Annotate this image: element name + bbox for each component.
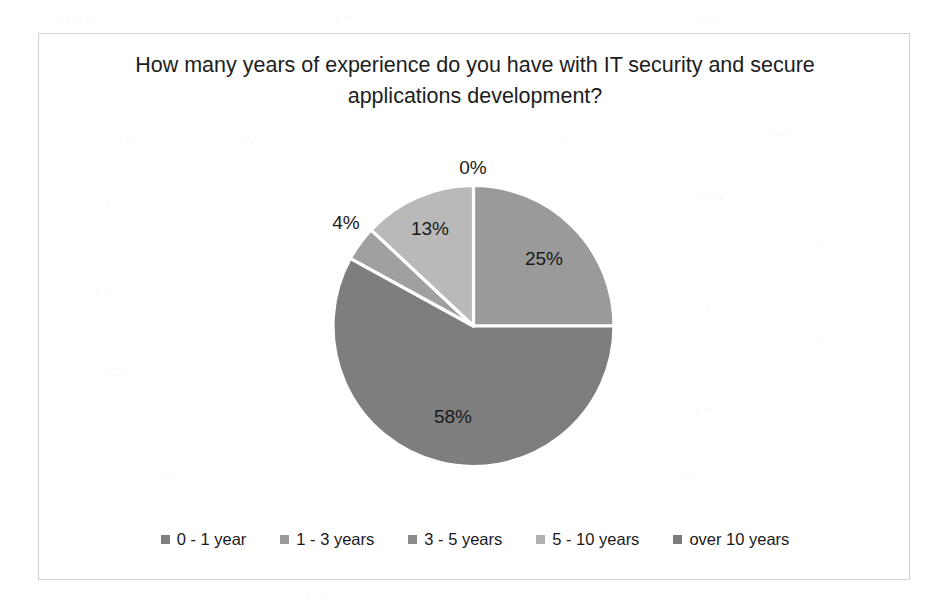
chart-container: How many years of experience do you have…: [38, 33, 910, 580]
legend-label: 3 - 5 years: [424, 530, 502, 549]
legend-swatch-icon: [408, 535, 417, 544]
pie-chart-svg: [39, 34, 911, 581]
pie-slices: [333, 186, 614, 467]
pie-plot-area: 0% 25% 58% 4% 13%: [39, 34, 911, 581]
legend-item[interactable]: over 10 years: [673, 530, 789, 549]
legend-swatch-icon: [673, 535, 682, 544]
legend-label: over 10 years: [689, 530, 789, 549]
slice-data-label-3: 4%: [332, 212, 359, 234]
legend-item[interactable]: 3 - 5 years: [408, 530, 502, 549]
slice-data-label-1: 25%: [525, 248, 563, 270]
legend-swatch-icon: [536, 535, 545, 544]
chart-legend: 0 - 1 year1 - 3 years3 - 5 years5 - 10 y…: [39, 530, 911, 549]
legend-item[interactable]: 0 - 1 year: [161, 530, 247, 549]
legend-item[interactable]: 1 - 3 years: [280, 530, 374, 549]
legend-swatch-icon: [161, 535, 170, 544]
slice-data-label-0: 0%: [459, 157, 486, 179]
legend-label: 5 - 10 years: [552, 530, 639, 549]
slice-data-label-2: 58%: [434, 406, 472, 428]
legend-swatch-icon: [280, 535, 289, 544]
legend-label: 0 - 1 year: [177, 530, 247, 549]
slice-data-label-4: 13%: [411, 218, 449, 240]
legend-label: 1 - 3 years: [296, 530, 374, 549]
legend-item[interactable]: 5 - 10 years: [536, 530, 639, 549]
